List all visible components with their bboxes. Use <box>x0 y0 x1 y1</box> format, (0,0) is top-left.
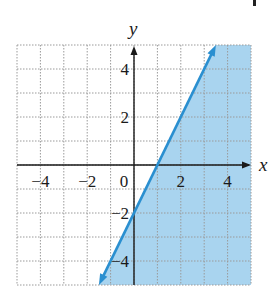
y-axis-arrow-icon <box>131 46 138 55</box>
y-tick-label: 4 <box>121 60 130 79</box>
y-axis-label: y <box>127 18 138 39</box>
x-tick-label: 2 <box>177 172 186 191</box>
y-tick-label: −4 <box>111 252 130 271</box>
inequality-graph: −4−202442−2−4xy <box>0 0 280 299</box>
x-tick-label: 4 <box>223 172 232 191</box>
y-tick-label: 2 <box>121 108 130 127</box>
x-tick-label: −2 <box>78 172 96 191</box>
x-tick-label: −4 <box>31 172 50 191</box>
x-axis-label: x <box>258 154 268 175</box>
cropped-glyph-fragment <box>253 0 256 6</box>
line-arrow-up-icon <box>207 45 215 57</box>
y-tick-label: −2 <box>111 204 129 223</box>
x-tick-label: 0 <box>120 172 129 191</box>
